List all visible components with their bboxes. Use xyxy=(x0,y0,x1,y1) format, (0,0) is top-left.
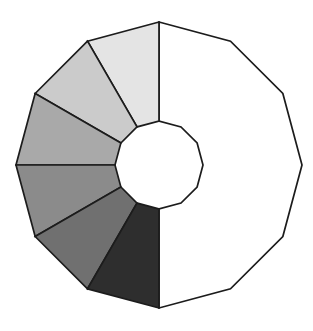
dodecagon-ring-figure xyxy=(0,0,313,331)
unshaded-right-half xyxy=(159,22,302,308)
figure-canvas xyxy=(0,0,313,331)
